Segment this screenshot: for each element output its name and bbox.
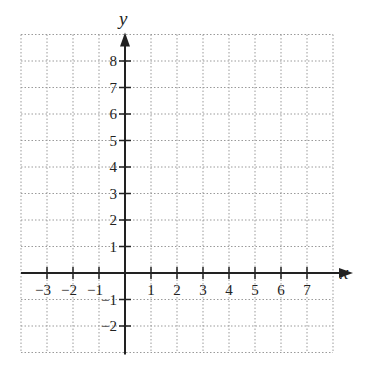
grid-lines (21, 35, 333, 353)
y-tick-label: −2 (101, 318, 117, 334)
x-tick-label: 3 (199, 282, 207, 298)
x-tick-label: 5 (251, 282, 259, 298)
x-tick-label: 4 (225, 282, 233, 298)
y-tick-label: 6 (110, 106, 118, 122)
x-tick-label: 6 (277, 282, 285, 298)
coordinate-plane: −3−2−1123456787654321−1−2 x y (0, 0, 370, 367)
y-tick-label: −1 (101, 292, 117, 308)
y-axis-label: y (117, 8, 128, 29)
y-tick-label: 3 (110, 186, 118, 202)
y-tick-label: 4 (110, 159, 118, 175)
y-axis-arrow-icon (120, 33, 130, 47)
x-tick-label: 2 (173, 282, 181, 298)
y-tick-label: 1 (110, 239, 118, 255)
x-tick-label: 7 (303, 282, 311, 298)
y-tick-label: 8 (110, 53, 118, 69)
x-tick-label: −2 (61, 282, 77, 298)
x-tick-label: 1 (147, 282, 155, 298)
x-axis-label: x (339, 262, 349, 283)
x-tick-label: −3 (35, 282, 51, 298)
y-tick-label: 7 (110, 80, 118, 96)
y-tick-label: 2 (110, 212, 118, 228)
y-tick-label: 5 (110, 133, 118, 149)
